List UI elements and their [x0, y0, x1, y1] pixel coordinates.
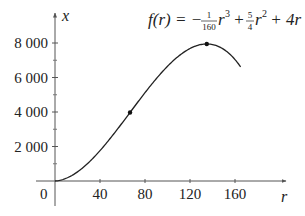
y-tick-label: 8 000 — [14, 35, 48, 51]
x-axis-label: r — [281, 188, 288, 205]
y-tick-label: 4 000 — [14, 104, 48, 120]
formula-tail: + 4r — [266, 10, 301, 29]
plus1: + — [230, 10, 248, 29]
y-ticks: 2 0004 0006 0008 000 — [14, 35, 58, 164]
term1: r — [218, 10, 225, 29]
frac2-denominator: 4 — [248, 22, 253, 32]
x-tick-label: 40 — [93, 186, 108, 202]
y-axis-label: x — [61, 7, 69, 24]
marked-points — [128, 42, 209, 115]
term2: r — [255, 10, 262, 29]
x-tick-label: 160 — [224, 186, 247, 202]
y-tick-label: 6 000 — [14, 70, 48, 86]
inflection-point-dot — [128, 110, 132, 114]
x-tick-label: 120 — [179, 186, 202, 202]
frac1-numerator: 1 — [207, 10, 212, 20]
frac2-numerator: 5 — [248, 10, 253, 20]
function-curve — [55, 44, 241, 181]
chart: 4080120160 2 0004 0006 0008 000 0 r x f(… — [0, 0, 305, 216]
formula-lhs: f(r) = − — [148, 10, 202, 29]
x-ticks: 4080120160 — [93, 179, 247, 202]
y-tick-label: 2 000 — [14, 139, 48, 155]
x-tick-label: 80 — [138, 186, 153, 202]
origin-label: 0 — [40, 186, 48, 202]
frac1-denominator: 160 — [202, 22, 216, 32]
maximum-dot — [205, 42, 209, 46]
formula: f(r) = − 1 160 r 3 + 5 4 r 2 + 4r — [148, 8, 301, 32]
